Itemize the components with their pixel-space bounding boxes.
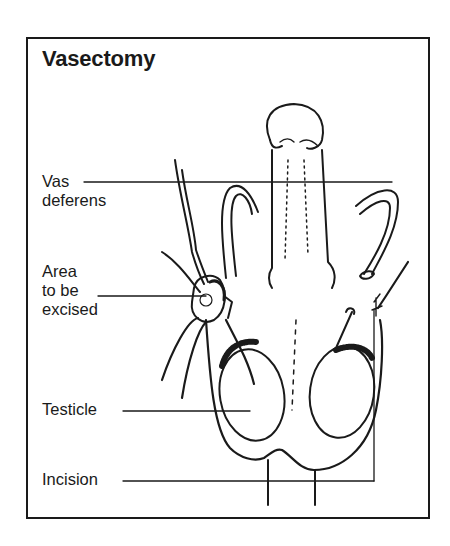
penis-shape <box>267 104 335 288</box>
excision-site <box>192 276 232 322</box>
vasectomy-illustration <box>0 0 450 546</box>
urethra-dots <box>285 160 308 260</box>
midline-dashes <box>292 320 296 410</box>
vas-deferens-left <box>162 160 258 292</box>
testicle-right <box>304 308 380 442</box>
vas-deferens-right <box>356 190 398 278</box>
testicle-left <box>212 342 291 446</box>
